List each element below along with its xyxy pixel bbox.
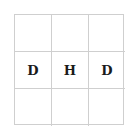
cell-r1-c1[interactable] — [15, 15, 52, 52]
cell-r3-c3[interactable] — [89, 89, 125, 126]
cell-r1-c3[interactable] — [89, 15, 125, 52]
cell-r3-c2[interactable] — [52, 89, 89, 126]
cell-r2-c3[interactable]: D — [89, 52, 125, 89]
cell-r2-c2[interactable]: H — [52, 52, 89, 89]
cell-r2-c1[interactable]: D — [15, 52, 52, 89]
cell-r3-c1[interactable] — [15, 89, 52, 126]
cell-r1-c2[interactable] — [52, 15, 89, 52]
game-board: D H D — [14, 14, 124, 125]
